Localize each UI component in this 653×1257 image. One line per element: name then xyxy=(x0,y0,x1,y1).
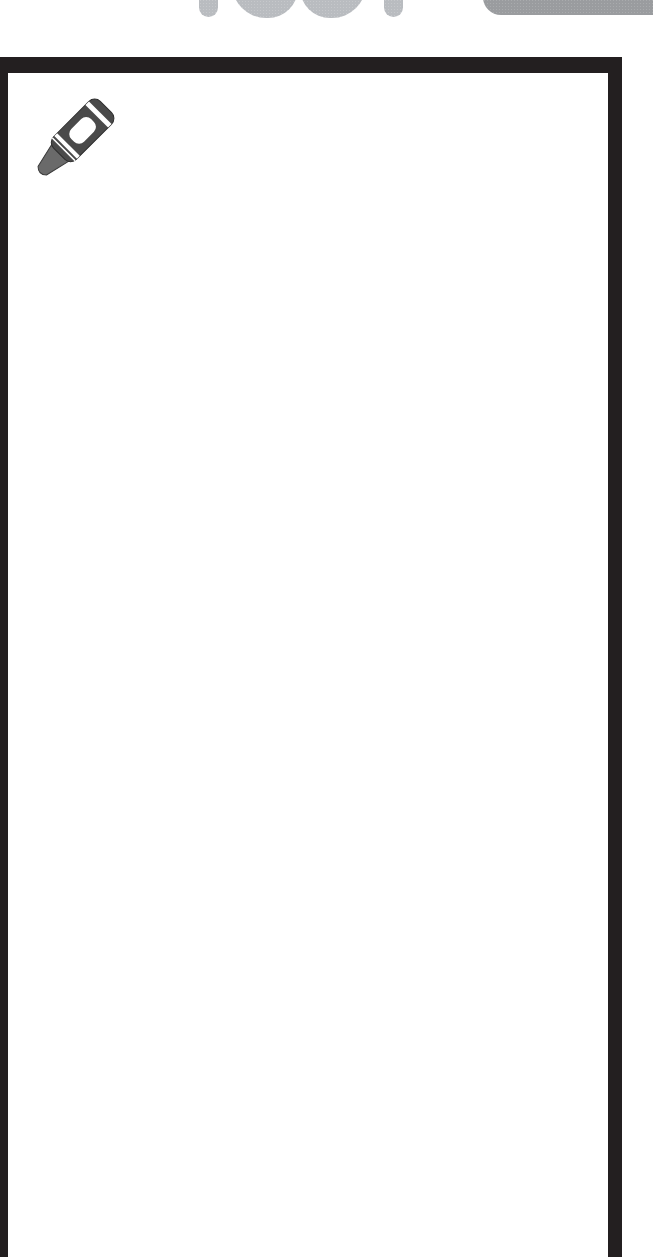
crayon-icon xyxy=(22,91,122,191)
title-letter-fragment xyxy=(232,0,298,18)
title-letter-fragment xyxy=(199,0,218,17)
drawing-frame xyxy=(0,57,622,1257)
title-letter-fragment xyxy=(300,0,366,18)
title-exclamation-fragment xyxy=(384,0,403,17)
header-tab-shape xyxy=(483,0,653,15)
